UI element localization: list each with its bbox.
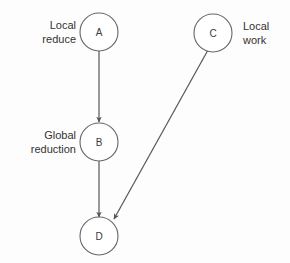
- diagram-canvas: A B C D Local reduce Global reduction Lo…: [0, 0, 290, 263]
- node-a-label: A: [96, 27, 103, 38]
- annotation-local-work: Local work: [243, 19, 269, 47]
- edge-c-to-d: [114, 50, 208, 219]
- node-a[interactable]: A: [80, 13, 118, 51]
- node-b-label: B: [96, 137, 103, 148]
- node-d-label: D: [95, 231, 102, 242]
- annotation-local-reduce-line-2: reduce: [42, 32, 76, 46]
- annotation-global-reduction-line-1: Global: [31, 128, 76, 142]
- annotation-global-reduction: Global reduction: [31, 128, 76, 156]
- annotation-local-work-line-1: Local: [243, 19, 269, 33]
- annotation-local-reduce: Local reduce: [42, 18, 76, 46]
- node-c[interactable]: C: [194, 14, 232, 52]
- node-b[interactable]: B: [80, 123, 118, 161]
- node-c-label: C: [209, 28, 216, 39]
- annotation-local-reduce-line-1: Local: [42, 18, 76, 32]
- annotation-global-reduction-line-2: reduction: [31, 142, 76, 156]
- node-group: A B C D: [80, 13, 232, 255]
- annotation-local-work-line-2: work: [243, 33, 269, 47]
- node-d[interactable]: D: [80, 217, 118, 255]
